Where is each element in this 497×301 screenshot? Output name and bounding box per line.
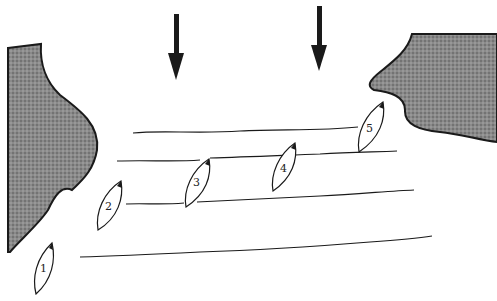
sailing-diagram: 1 2 3 4 5: [0, 0, 497, 301]
boat-2-label: 2: [105, 200, 112, 213]
boat-4: 4: [272, 143, 296, 191]
right-shore: [370, 34, 497, 142]
boat-2: 2: [97, 181, 122, 230]
wind-arrow-right: [311, 6, 327, 71]
boat-1: 1: [35, 243, 54, 294]
wave-line-4: [80, 236, 432, 257]
boat-3: 3: [185, 159, 210, 207]
boat-4-label: 4: [280, 162, 287, 175]
boat-3-label: 3: [193, 176, 200, 189]
wave-lines: [80, 127, 432, 257]
wave-line-1: [133, 127, 358, 133]
wind-arrow-left: [168, 14, 184, 80]
left-shore: [8, 44, 97, 252]
boat-5: 5: [358, 102, 384, 152]
boat-5-label: 5: [366, 122, 373, 135]
boat-1-label: 1: [40, 262, 47, 275]
wave-line-2: [117, 151, 397, 161]
wave-line-3: [126, 190, 414, 204]
